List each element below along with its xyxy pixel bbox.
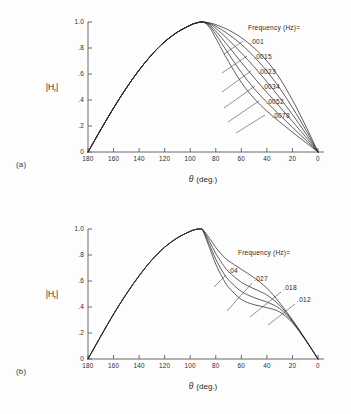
x-tick-label: 140 [133,362,145,369]
legend-item-label: .04 [228,267,238,274]
y-tick-label: .4 [78,303,84,310]
data-curve [88,22,318,152]
y-tick-label: .2 [78,122,84,129]
x-tick-label: 20 [289,155,297,162]
legend-item-label: .0078 [272,112,290,119]
x-tick-label: 120 [159,362,171,369]
y-axis-title: |Hr| [46,289,59,300]
plot-svg-a: 1.0.8.6.4.20180160140120100806040200θ(de… [0,0,351,207]
x-tick-label: 120 [159,155,171,162]
legend-leader-line [228,101,259,122]
y-tick-label: 1.0 [75,18,85,25]
chart-panel-a: (a) 1.0.8.6.4.20180160140120100806040200… [0,0,351,207]
plot-svg-b: 1.0.8.6.4.20180160140120100806040200θ(de… [0,207,351,414]
legend-leader-line [236,115,265,133]
x-tick-label: 20 [289,362,297,369]
x-axis-title: θ(deg.) [189,381,218,391]
data-curve [88,22,318,152]
x-tick-label: 60 [238,155,246,162]
legend-leader-line [224,86,255,108]
legend-item-label: .001 [250,38,264,45]
data-curve [88,22,318,152]
data-curve [88,22,318,152]
legend-item-label: .012 [297,296,311,303]
legend-item-label: .0052 [266,98,284,105]
y-tick-label: .4 [78,96,84,103]
x-tick-label: 80 [212,155,220,162]
x-tick-label: 80 [212,362,220,369]
y-tick-label: .6 [78,70,84,77]
y-tick-label: .2 [78,329,84,336]
x-tick-label: 60 [238,362,246,369]
x-tick-label: 160 [108,155,120,162]
y-tick-label: .8 [78,44,84,51]
x-axis-title: θ(deg.) [189,174,218,184]
legend-item-label: .0015 [254,53,272,60]
figure-container: (a) 1.0.8.6.4.20180160140120100806040200… [0,0,351,414]
legend-item-label: .018 [283,284,297,291]
data-curve [88,22,318,152]
y-tick-label: 1.0 [75,225,85,232]
legend-header: Frequency (Hz)= [238,249,290,257]
x-tick-label: 100 [185,362,197,369]
chart-panel-b: (b) 1.0.8.6.4.20180160140120100806040200… [0,207,351,414]
data-curve [88,22,318,152]
x-tick-label: 0 [316,362,320,369]
x-tick-label: 100 [185,155,197,162]
x-tick-label: 180 [82,155,94,162]
legend-leader-line [227,283,252,311]
legend-leader-line [222,71,251,92]
legend-item-label: .0034 [262,83,280,90]
x-tick-label: 160 [108,362,120,369]
x-tick-label: 40 [263,155,271,162]
legend-item-label: .027 [254,275,268,282]
y-axis-title: |Hr| [46,82,59,93]
x-tick-label: 140 [133,155,145,162]
x-tick-label: 180 [82,362,94,369]
legend-header: Frequency (Hz)= [248,24,300,32]
x-tick-label: 40 [263,362,271,369]
x-tick-label: 0 [316,155,320,162]
y-tick-label: .6 [78,277,84,284]
y-tick-label: .8 [78,251,84,258]
legend-item-label: .0023 [258,68,276,75]
